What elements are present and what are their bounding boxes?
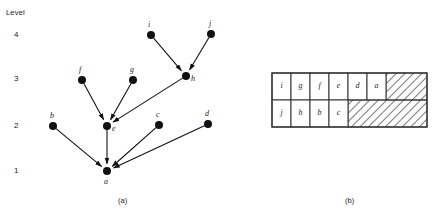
panel-b-schedule-table: igfedajhbc (b) [240, 0, 432, 215]
graph-node-label-d: d [205, 109, 209, 118]
graph-node-c[interactable] [155, 121, 163, 129]
graph-edge-f-e [84, 84, 104, 120]
table-cell-label-g: g [291, 81, 310, 90]
level-label-1: 1 [14, 166, 18, 175]
graph-node-label-f: f [79, 65, 81, 74]
graph-edge-i-h [154, 38, 182, 70]
graph-edge-d-a [114, 126, 205, 168]
graph-node-label-b: b [50, 111, 54, 120]
table-cell-label-e: e [329, 81, 348, 90]
table-cell-label-b: b [310, 108, 329, 117]
graph-node-g[interactable] [129, 76, 137, 84]
panel-a-caption: (a) [118, 196, 127, 205]
table-hatch-row-1 [386, 73, 427, 100]
level-label-2: 2 [14, 121, 18, 130]
graph-node-b[interactable] [49, 122, 57, 130]
panel-a-level-graph: Level 4321 ijfghbecda (a) [0, 0, 240, 215]
table-cell-label-i: i [272, 81, 291, 90]
graph-node-h[interactable] [182, 72, 190, 80]
table-cell-label-c: c [329, 108, 348, 117]
graph-edge-j-h [190, 37, 209, 69]
table-cell-label-d: d [348, 81, 367, 90]
graph-node-e[interactable] [103, 122, 111, 130]
level-label-3: 3 [14, 74, 18, 83]
level-graph-svg [0, 0, 240, 215]
table-cell-label-f: f [310, 81, 329, 90]
table-cell-label-h: h [291, 108, 310, 117]
panel-b-caption: (b) [345, 196, 354, 205]
graph-node-label-g: g [130, 65, 134, 74]
graph-node-label-i: i [148, 20, 150, 29]
graph-edge-c-a [112, 128, 156, 167]
table-hatch-row-2 [348, 100, 427, 127]
graph-node-label-j: j [209, 19, 211, 28]
graph-node-label-a: a [104, 177, 108, 186]
graph-node-label-h: h [191, 74, 195, 83]
graph-edge-h-e [113, 78, 183, 122]
level-axis-caption: Level [6, 8, 25, 17]
table-cell-label-a: a [367, 81, 386, 90]
level-label-4: 4 [14, 30, 18, 39]
table-cell-label-j: j [272, 108, 291, 117]
graph-edge-b-a [56, 129, 101, 167]
graph-node-i[interactable] [147, 31, 155, 39]
graph-node-label-c: c [156, 110, 160, 119]
figure-container: Level 4321 ijfghbecda (a) igfedajhbc (b) [0, 0, 432, 215]
graph-node-label-e: e [112, 124, 116, 133]
graph-node-j[interactable] [207, 30, 215, 38]
graph-edge-g-e [111, 83, 131, 119]
graph-node-d[interactable] [204, 120, 212, 128]
graph-node-f[interactable] [78, 76, 86, 84]
graph-node-a[interactable] [103, 167, 111, 175]
